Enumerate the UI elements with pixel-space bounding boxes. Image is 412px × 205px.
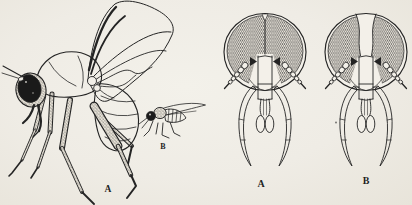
haltere bbox=[94, 85, 101, 92]
head-a-illustration: A bbox=[224, 14, 306, 190]
fly-mid-leg bbox=[62, 100, 94, 204]
wing-costa-vein bbox=[89, 7, 116, 70]
label-fly-small: B bbox=[160, 142, 166, 151]
small-fly-illustration: B bbox=[139, 103, 206, 151]
small-fly-head bbox=[146, 111, 155, 120]
head-b-illustration: B bbox=[325, 13, 407, 186]
head-b-proboscis bbox=[357, 99, 375, 133]
label-head-b: B bbox=[363, 175, 370, 186]
large-fly-illustration: A bbox=[2, 1, 173, 204]
wing-base-sclerite bbox=[88, 77, 97, 86]
head-a-proboscis bbox=[256, 99, 274, 133]
small-fly-antenna bbox=[139, 118, 149, 128]
label-fly-large: A bbox=[105, 184, 112, 194]
scan-speck bbox=[335, 122, 337, 124]
label-head-a: A bbox=[257, 178, 265, 189]
small-fly-legs bbox=[144, 121, 180, 138]
fly-wing bbox=[88, 1, 173, 101]
figure-canvas: A B bbox=[0, 0, 412, 205]
fly-antenna bbox=[3, 66, 23, 77]
illustration-plate: A B bbox=[0, 0, 412, 205]
